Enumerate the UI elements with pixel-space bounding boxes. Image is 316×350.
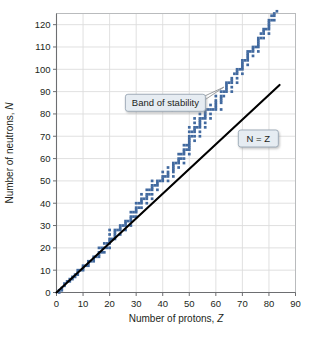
y-tick-label: 110 (35, 41, 50, 52)
data-point (183, 148, 186, 151)
x-tick-label: 50 (184, 298, 195, 309)
data-point (236, 68, 239, 71)
data-point (183, 144, 186, 147)
x-tick-label: 40 (157, 298, 168, 309)
data-point (114, 229, 117, 232)
data-point (222, 90, 225, 93)
data-point (273, 12, 276, 15)
data-point (199, 117, 202, 120)
data-point (98, 247, 101, 250)
data-point (177, 153, 180, 156)
data-point (151, 197, 154, 200)
data-point (151, 180, 154, 183)
data-point (230, 86, 233, 89)
data-point (201, 117, 204, 120)
data-point (185, 144, 188, 147)
data-point (180, 157, 183, 160)
data-point (236, 77, 239, 80)
data-point (119, 224, 122, 227)
data-point (156, 180, 159, 183)
y-tick-label: 50 (40, 175, 51, 186)
data-point (140, 193, 143, 196)
y-tick-label: 10 (40, 265, 51, 276)
data-point (188, 130, 191, 133)
data-point (172, 175, 175, 178)
data-point (132, 211, 135, 214)
data-point (209, 108, 212, 111)
data-point (209, 117, 212, 120)
data-point (183, 157, 186, 160)
data-point (254, 46, 257, 49)
data-point (185, 148, 188, 151)
data-point (193, 122, 196, 125)
data-point (175, 162, 178, 165)
data-point (233, 72, 236, 75)
x-tick-label: 20 (104, 298, 115, 309)
data-point (204, 126, 207, 129)
data-point (246, 63, 249, 66)
data-point (193, 126, 196, 129)
y-tick-label: 90 (40, 86, 51, 97)
data-point (153, 184, 156, 187)
data-point (270, 19, 273, 22)
data-point (145, 202, 148, 205)
data-point (241, 59, 244, 62)
figure-band-of-stability: 0102030405060708090010203040506070809010… (0, 0, 316, 350)
x-axis-title: Number of protons, Z (129, 313, 224, 324)
data-point (151, 184, 154, 187)
data-point (193, 135, 196, 138)
data-point (238, 68, 241, 71)
data-point (214, 95, 217, 98)
data-point (220, 95, 223, 98)
data-point (270, 14, 273, 17)
data-point (148, 193, 151, 196)
data-point (196, 126, 199, 129)
data-point (167, 180, 170, 183)
x-tick-label: 0 (54, 298, 59, 309)
data-point (220, 90, 223, 93)
data-point (265, 28, 268, 31)
data-point (130, 215, 133, 218)
data-point (193, 139, 196, 142)
data-point (137, 202, 140, 205)
y-tick-label: 40 (40, 198, 51, 209)
data-point (199, 113, 202, 116)
data-point (140, 197, 143, 200)
data-point (252, 55, 255, 58)
data-point (159, 180, 162, 183)
data-point (268, 19, 271, 22)
data-point (262, 28, 265, 31)
data-point (212, 108, 215, 111)
data-point (161, 175, 164, 178)
data-point (193, 117, 196, 120)
data-point (180, 153, 183, 156)
data-point (108, 238, 111, 241)
data-point (209, 113, 212, 116)
y-tick-label: 120 (35, 19, 51, 30)
data-point (167, 166, 170, 169)
data-point (188, 153, 191, 156)
data-point (148, 188, 151, 191)
data-point (257, 37, 260, 40)
data-point (230, 90, 233, 93)
data-point (156, 188, 159, 191)
data-point (214, 99, 217, 102)
data-point (183, 162, 186, 165)
y-tick-label: 80 (40, 108, 51, 119)
data-point (273, 19, 276, 22)
data-point (177, 157, 180, 160)
data-point (108, 229, 111, 232)
data-point (244, 59, 247, 62)
data-point (228, 81, 231, 84)
data-point (252, 46, 255, 49)
data-point (116, 229, 119, 232)
data-point (207, 108, 210, 111)
data-point (103, 242, 106, 245)
y-axis-title: Number of neutrons, N (4, 102, 15, 204)
data-point (276, 10, 279, 13)
data-point (108, 247, 111, 250)
data-point (241, 72, 244, 75)
data-point (188, 135, 191, 138)
data-point (151, 193, 154, 196)
data-point (262, 37, 265, 40)
